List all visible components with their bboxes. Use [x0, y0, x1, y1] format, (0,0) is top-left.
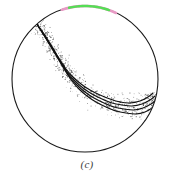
- figure-caption: (c): [0, 157, 174, 171]
- plot-disc-background: [12, 6, 158, 152]
- figure-container: (c): [0, 0, 174, 178]
- stereographic-plot: [0, 0, 174, 178]
